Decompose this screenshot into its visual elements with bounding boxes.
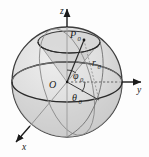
point-label-p0-main: P (69, 29, 76, 40)
axis-label-x: x (21, 142, 27, 152)
axis-label-y: y (136, 85, 142, 95)
x-axis (16, 126, 30, 142)
origin-label: O (49, 79, 56, 90)
polar-angle-label-phi0-main: φ (73, 70, 79, 81)
diagram-canvas: z y x O P 0 r 0 φ 0 θ 0 (0, 0, 149, 157)
azimuth-angle-label-theta0-main: θ (72, 92, 77, 103)
origin-marker (66, 81, 68, 83)
radius-label-r0-main: r (92, 58, 96, 68)
point-p0-marker (83, 39, 86, 42)
spherical-coordinates-figure: z y x O P 0 r 0 φ 0 θ 0 (0, 0, 149, 157)
axis-label-z: z (59, 6, 64, 16)
